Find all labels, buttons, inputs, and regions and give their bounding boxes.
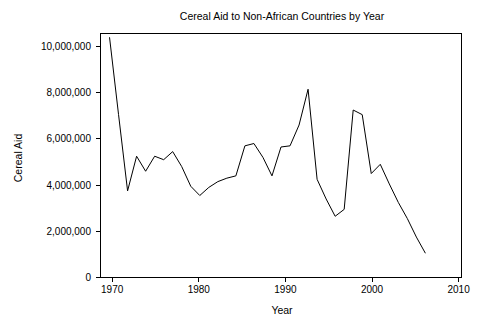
chart-title: Cereal Aid to Non-African Countries by Y…	[180, 10, 385, 22]
y-tick-label-6m: 6,000,000	[47, 133, 92, 144]
x-tick-label-1980: 1980	[188, 284, 211, 295]
chart-screenshot: Cereal Aid to Non-African Countries by Y…	[0, 0, 494, 327]
x-tick-label-2010: 2010	[447, 284, 470, 295]
y-tick-label-8m: 8,000,000	[47, 87, 92, 98]
x-axis-title: Year	[271, 304, 293, 316]
y-axis-title: Cereal Aid	[12, 134, 24, 183]
y-tick-label-2m: 2,000,000	[47, 226, 92, 237]
chart-canvas: Cereal Aid to Non-African Countries by Y…	[0, 0, 494, 327]
y-tick-label-4m: 4,000,000	[47, 180, 92, 191]
y-tick-label-10m: 10,000,000	[41, 41, 91, 52]
y-tick-label-0: 0	[85, 272, 91, 283]
x-tick-label-2000: 2000	[361, 284, 384, 295]
x-tick-label-1990: 1990	[274, 284, 297, 295]
x-tick-label-1970: 1970	[101, 284, 124, 295]
